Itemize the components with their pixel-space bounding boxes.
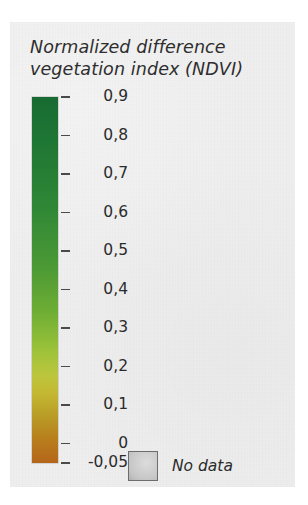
tick-label: 0,9 bbox=[80, 86, 128, 107]
ndvi-colorbar bbox=[32, 97, 58, 463]
tick-mark-icon bbox=[61, 404, 70, 406]
no-data-legend-entry: No data bbox=[128, 451, 233, 481]
tick-label: 0,6 bbox=[80, 202, 128, 223]
tick-label: 0 bbox=[80, 433, 128, 454]
tick-mark-icon bbox=[61, 135, 70, 137]
tick-label: 0,4 bbox=[80, 279, 128, 300]
tick-mark-icon bbox=[61, 173, 70, 175]
tick-mark-icon bbox=[61, 96, 70, 98]
tick-mark-icon bbox=[61, 250, 70, 252]
tick-mark-icon bbox=[61, 443, 70, 445]
tick-mark-icon bbox=[61, 289, 70, 291]
legend-panel: Normalized difference vegetation index (… bbox=[10, 22, 295, 487]
tick-mark-icon bbox=[61, 462, 70, 464]
tick-label: 0,5 bbox=[80, 240, 128, 261]
tick-mark-icon bbox=[61, 212, 70, 214]
tick-mark-icon bbox=[61, 366, 70, 368]
tick-label: -0,05 bbox=[80, 452, 128, 473]
no-data-swatch bbox=[128, 451, 158, 481]
tick-label: 0,1 bbox=[80, 394, 128, 415]
no-data-label: No data bbox=[172, 457, 233, 475]
tick-label: 0,7 bbox=[80, 163, 128, 184]
tick-label: 0,2 bbox=[80, 356, 128, 377]
legend-title: Normalized difference vegetation index (… bbox=[30, 36, 280, 80]
tick-mark-icon bbox=[61, 327, 70, 329]
tick-label: 0,3 bbox=[80, 317, 128, 338]
colorbar-group: 0,9 0,8 0,7 0,6 0,5 0,4 0,3 0,2 bbox=[32, 97, 282, 472]
tick-label: 0,8 bbox=[80, 125, 128, 146]
